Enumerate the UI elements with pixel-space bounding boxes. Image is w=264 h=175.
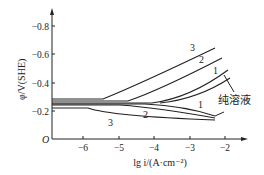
curve-2-cathodic [52, 105, 215, 118]
curve-label-2: 2 [199, 54, 204, 65]
y-tick-label: −0.2 [32, 107, 49, 117]
y-axis-arrow-icon [50, 8, 54, 15]
y-axis-title: φ/V(SHE) [16, 59, 28, 100]
y-tick-label: −0.8 [32, 22, 49, 32]
pure-solution-label: 纯溶液 [218, 93, 251, 107]
curve-label-3-low: 3 [108, 117, 113, 128]
x-tick-label: −3 [185, 143, 195, 153]
x-tick-label: −5 [114, 143, 124, 153]
polarization-chart: −0.8 −0.6 −0.4 −0.2 −6 −5 −4 −3 −2 O φ/V… [0, 0, 264, 175]
x-tick-label: −4 [149, 143, 159, 153]
curve-label-2-low: 2 [143, 109, 148, 120]
x-axis-arrow-icon [241, 137, 248, 141]
curve-label-3: 3 [190, 42, 195, 53]
pure-solution-leader-top [224, 75, 234, 92]
x-tick-label: −2 [220, 143, 230, 153]
curve-label-1-mid: 1 [198, 99, 203, 110]
y-tick-label: −0.4 [32, 79, 49, 89]
y-tick-label: −0.6 [32, 50, 49, 60]
x-tick-label: −6 [78, 143, 88, 153]
curve-label-1: 1 [213, 65, 218, 76]
x-axis-title: lg i/(A·cm⁻²) [133, 157, 187, 169]
origin-label: O [42, 134, 49, 145]
pure-solution-leader-bottom [215, 112, 224, 116]
